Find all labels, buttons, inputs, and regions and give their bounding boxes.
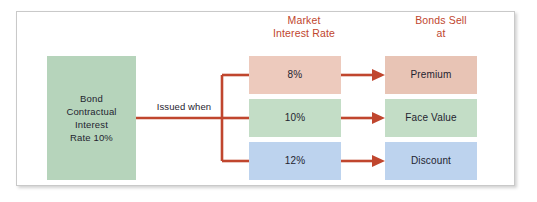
node-market-rate-10: 10% [249,99,341,137]
column-heading-bonds-sell-at: Bonds Sell at [385,14,497,39]
column-heading-market-interest-rate: Market Interest Rate [248,14,360,39]
node-result-premium: Premium [385,56,477,94]
node-result-face-value: Face Value [385,99,477,137]
diagram-canvas: Market Interest Rate Bonds Sell at Bond … [0,0,537,202]
node-bond-contractual-interest-rate: Bond Contractual Interest Rate 10% [47,56,136,180]
node-market-rate-12: 12% [249,142,341,180]
node-result-discount: Discount [385,142,477,180]
connector-label-issued-when: Issued when [144,101,224,112]
node-market-rate-8: 8% [249,56,341,94]
